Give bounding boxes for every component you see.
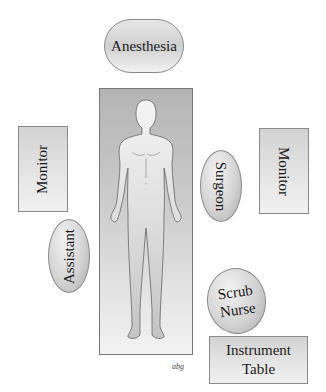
- monitor-left-label: Monitor: [35, 144, 52, 193]
- anesthesia-station: Anesthesia: [104, 19, 184, 73]
- surgeon-position: Surgeon: [200, 150, 242, 222]
- assistant-label: Assistant: [61, 228, 78, 283]
- instrument-table: Instrument Table: [209, 336, 308, 384]
- anesthesia-label: Anesthesia: [111, 38, 177, 55]
- instrument-table-label-line1: Instrument: [226, 341, 291, 360]
- assistant-position: Assistant: [48, 219, 90, 293]
- operating-table: [99, 88, 193, 355]
- surgeon-label: Surgeon: [213, 161, 230, 211]
- artist-signature: abg: [172, 362, 184, 371]
- scrub-nurse-position: Scrub Nurse: [203, 264, 271, 338]
- scrub-nurse-label-line2: Nurse: [219, 299, 257, 322]
- monitor-right-label: Monitor: [276, 146, 293, 195]
- monitor-right: Monitor: [259, 128, 309, 214]
- monitor-left: Monitor: [18, 126, 68, 212]
- instrument-table-label-line2: Table: [226, 360, 291, 379]
- patient-body-icon: [99, 88, 193, 355]
